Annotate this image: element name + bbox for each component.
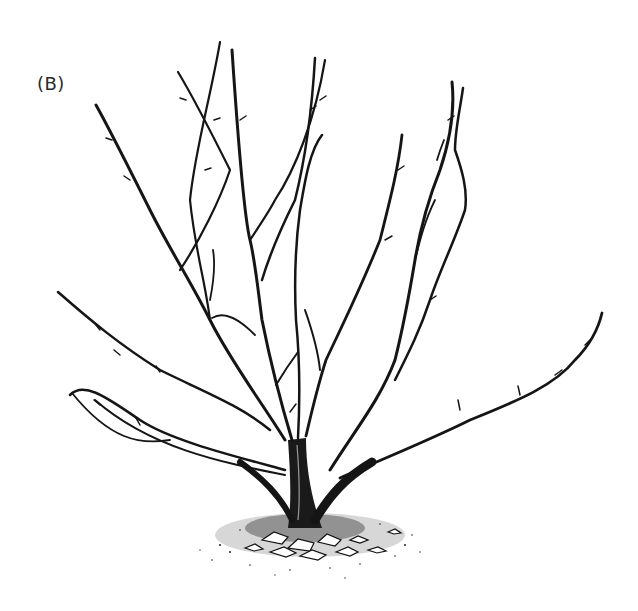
illustration-figure: (B) xyxy=(0,0,638,611)
bud-nodes xyxy=(94,96,590,425)
shrub-drawing xyxy=(0,0,638,611)
trunk xyxy=(240,438,372,528)
branches xyxy=(58,42,602,478)
